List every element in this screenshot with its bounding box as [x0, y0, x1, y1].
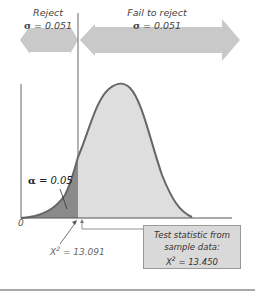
test-statistic-value: X2 = 13.450: [144, 253, 240, 268]
fail-title: Fail to reject: [96, 6, 218, 19]
fail-to-reject-label: Fail to reject σ = 0.051: [96, 6, 218, 32]
test-statistic-line2: sample data:: [144, 241, 240, 253]
critical-value-label: X2 = 13.091: [50, 245, 105, 257]
critical-value-pointer-arrowhead: [72, 220, 77, 225]
critical-value-pointer: [60, 222, 76, 244]
reject-region-label: Reject σ = 0.051: [16, 6, 80, 32]
reject-sigma: σ = 0.051: [16, 19, 80, 32]
alpha-label: α = 0.05: [28, 175, 73, 186]
reject-title: Reject: [16, 6, 80, 19]
chi-square-curve-fill: [78, 84, 192, 219]
test-statistic-pointer: [82, 222, 143, 229]
origin-label: 0: [18, 218, 24, 228]
test-statistic-pointer-arrowhead: [80, 219, 84, 223]
test-statistic-line1: Test statistic from: [144, 229, 240, 241]
test-statistic-box: Test statistic from sample data: X2 = 13…: [143, 225, 241, 269]
fail-sigma: σ = 0.051: [96, 19, 218, 32]
